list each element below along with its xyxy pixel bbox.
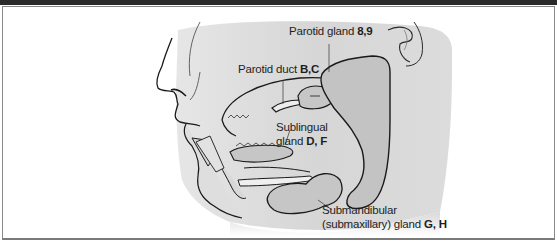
label-parotid-gland-refs: 8,9: [357, 25, 372, 37]
label-sublingual-line2: gland: [276, 135, 303, 147]
label-sublingual-refs: D, F: [306, 135, 327, 147]
label-submandibular-refs: G, H: [424, 218, 447, 230]
label-sublingual-line1: Sublingual: [276, 120, 328, 134]
label-parotid-duct-name: Parotid duct: [238, 63, 297, 75]
label-submandibular-line2: (submaxillary) gland: [322, 218, 421, 230]
label-parotid-duct: Parotid duct B,C: [238, 62, 319, 76]
label-submandibular-gland: Submandibular (submaxillary) gland G, H: [322, 203, 447, 231]
label-parotid-gland: Parotid gland 8,9: [289, 24, 373, 38]
label-parotid-gland-name: Parotid gland: [289, 25, 354, 37]
label-sublingual-gland: Sublingual gland D, F: [276, 120, 328, 148]
label-parotid-duct-refs: B,C: [300, 63, 319, 75]
label-submandibular-line1: Submandibular: [322, 203, 447, 217]
